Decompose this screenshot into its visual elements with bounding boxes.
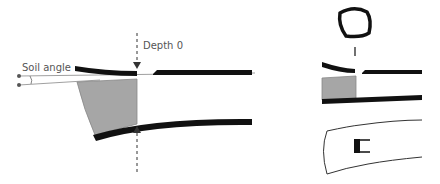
small-upper-right-bar <box>362 70 422 74</box>
depth-zero-label: Depth 0 <box>143 40 183 51</box>
angle-point-top <box>17 74 21 78</box>
plan-marker-block <box>354 139 360 153</box>
soil-region <box>77 79 137 135</box>
angle-point-bottom <box>17 83 21 87</box>
depth-arrow-bottom <box>133 126 141 174</box>
plan-view-outline <box>324 120 423 174</box>
arrow-down-icon <box>133 62 141 69</box>
depth-arrow-top <box>133 33 141 69</box>
cross-section-outline <box>340 9 371 37</box>
diagram-canvas <box>0 0 440 184</box>
plan-marker-bracket <box>360 140 370 152</box>
small-soil-region <box>322 76 356 100</box>
upper-left-bar <box>75 66 137 76</box>
angle-arc-icon <box>30 76 32 84</box>
small-upper-left-bar <box>322 62 355 73</box>
upper-right-bar <box>153 70 252 75</box>
soil-angle-label: Soil angle <box>22 62 71 73</box>
